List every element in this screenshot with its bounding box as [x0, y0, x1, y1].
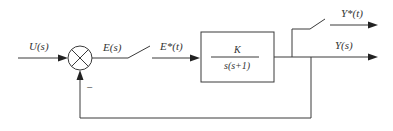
feedback-sign: − [86, 81, 93, 93]
output-sampler-switch-icon [310, 19, 325, 29]
plant-denominator: s(s+1) [224, 60, 251, 72]
output-sampler-branch-line [292, 29, 310, 57]
feedback-path-line [80, 57, 311, 118]
error-sampler-switch-icon [128, 46, 150, 58]
input-arrow-icon [58, 55, 68, 62]
sampled-output-arrow-icon [368, 22, 378, 29]
error-label: E(s) [102, 41, 122, 54]
summing-junction-icon [68, 46, 92, 70]
plant-transfer-function-block: K s(s+1) [201, 32, 274, 82]
output-label: Y(s) [335, 39, 353, 52]
output-arrow-icon [368, 54, 378, 61]
block-diagram: U(s) − E(s) E*(t) K s(s+1) Y(s) Y*(t) [0, 0, 393, 131]
plant-numerator: K [233, 44, 242, 55]
sampled-error-arrow-icon [190, 55, 200, 62]
sampled-error-label: E*(t) [159, 40, 183, 53]
input-label: U(s) [29, 40, 49, 53]
sampled-output-label: Y*(t) [341, 7, 363, 20]
feedback-arrow-icon [77, 70, 84, 80]
